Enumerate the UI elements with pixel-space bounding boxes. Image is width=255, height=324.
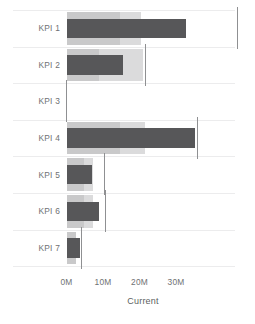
bullet-track-kpi-7 [67,230,236,267]
target-marker [66,80,67,122]
measure-bar [67,238,81,258]
measure-bar [67,19,187,39]
bullet-row-kpi-3: KPI 3 [13,83,235,120]
x-axis: 0M 10M 20M 30M [13,277,235,291]
row-label-kpi-5: KPI 5 [13,170,60,180]
measure-bar [67,202,100,222]
plot-area: KPI 1 KPI 2 KPI 3 [13,10,235,275]
bullet-track-kpi-3 [67,83,236,120]
bullet-row-kpi-5: KPI 5 [13,156,235,193]
row-label-kpi-7: KPI 7 [13,243,60,253]
bullet-track-kpi-2 [67,47,236,84]
bullet-track-kpi-5 [67,156,236,193]
target-marker [105,190,106,232]
x-tick-label: 0M [60,277,72,287]
x-axis-title: Current [13,296,235,306]
bullet-track-kpi-1 [67,10,236,47]
row-label-kpi-3: KPI 3 [13,96,60,106]
measure-bar [67,55,124,75]
target-marker [197,117,198,159]
bullet-track-kpi-6 [67,193,236,230]
target-marker [145,44,146,86]
target-marker [81,227,82,269]
bullet-row-kpi-1: KPI 1 [13,10,235,47]
bullet-chart: KPI 1 KPI 2 KPI 3 [0,0,255,324]
row-label-kpi-2: KPI 2 [13,60,60,70]
measure-bar [67,128,195,148]
row-label-kpi-1: KPI 1 [13,23,60,33]
row-label-kpi-4: KPI 4 [13,133,60,143]
bullet-row-kpi-7: KPI 7 [13,230,235,267]
bullet-row-kpi-6: KPI 6 [13,193,235,230]
measure-bar [67,165,93,185]
x-tick-label: 20M [131,277,148,287]
row-label-kpi-6: KPI 6 [13,206,60,216]
target-marker [237,7,238,49]
x-tick-label: 30M [168,277,185,287]
bullet-row-kpi-4: KPI 4 [13,120,235,157]
bullet-row-kpi-2: KPI 2 [13,47,235,84]
bullet-track-kpi-4 [67,120,236,157]
gridline [13,266,235,267]
x-tick-label: 10M [95,277,112,287]
x-axis-title-text: Current [127,296,158,306]
